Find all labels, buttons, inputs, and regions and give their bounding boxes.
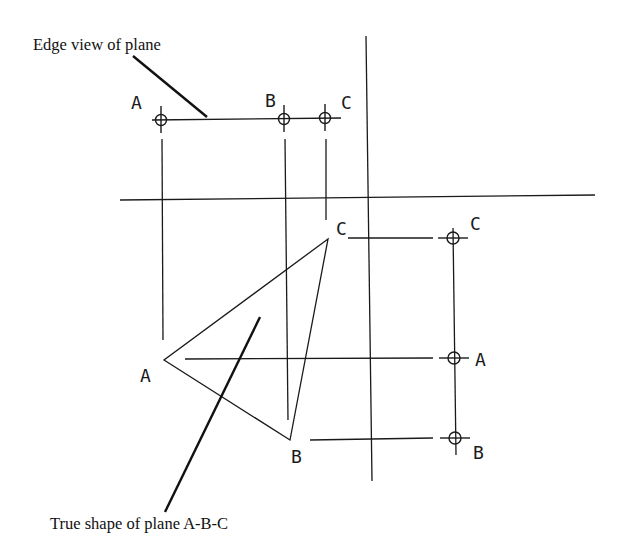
edge-view-annotation: Edge view of plane [33,35,161,54]
side-label-c: C [470,213,481,234]
edge-view-line [152,118,341,120]
true-shape-annotation: True shape of plane A-B-C [50,514,228,533]
top-label-c: C [341,92,352,113]
horizontal-fold-line [120,195,595,200]
triangle-label-a: A [140,365,151,386]
triangle-label-c: C [336,218,347,239]
side-label-a: A [475,349,486,370]
side-point-a [439,352,469,364]
edge-view-leader [133,56,207,117]
projector-b-vertical [285,139,288,420]
side-label-b: B [473,442,484,463]
projector-a-vertical [162,139,163,340]
top-label-b: B [265,90,276,111]
triangle-label-b: B [291,446,302,467]
projector-a-horizontal [185,358,433,359]
true-shape-triangle [164,239,328,440]
vertical-fold-line [366,36,372,481]
top-label-a: A [131,92,142,113]
side-view-line [453,228,456,455]
side-point-b [440,432,470,444]
true-shape-leader [165,317,260,512]
true-shape-construction-diagram: A B C A B C C A B Edge view of plane Tru… [0,0,629,557]
